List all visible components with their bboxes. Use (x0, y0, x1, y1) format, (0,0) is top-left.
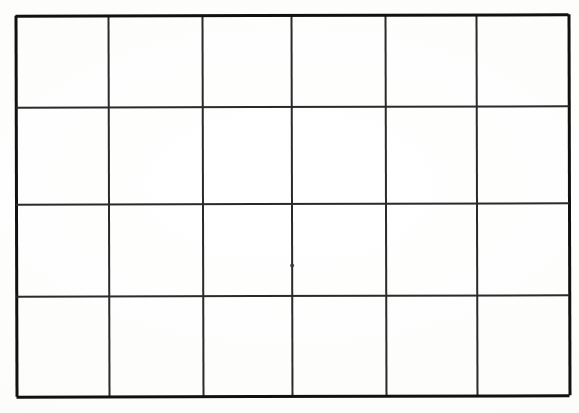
grid-cell-r1-c3[interactable] (292, 107, 386, 204)
grid-cell-r1-c0[interactable] (16, 107, 109, 204)
grid-table[interactable] (15, 14, 569, 396)
page-canvas (0, 0, 579, 413)
grid-cell-r3-c5[interactable] (477, 295, 569, 395)
ink-speck-artifact (290, 264, 294, 267)
grid-cell-r2-c3[interactable] (292, 204, 386, 296)
grid-cell-r0-c5[interactable] (476, 14, 568, 106)
grid-cell-r2-c4[interactable] (386, 204, 477, 296)
grid-cell-r2-c5[interactable] (477, 203, 569, 295)
grid-cell-r0-c1[interactable] (108, 15, 202, 107)
grid-border-right (567, 14, 571, 395)
grid-cell-r0-c4[interactable] (385, 15, 476, 107)
grid-cell-r2-c0[interactable] (16, 204, 109, 296)
grid-cell-r0-c2[interactable] (202, 15, 291, 107)
grid-cell-r1-c1[interactable] (109, 107, 203, 204)
grid-cell-r2-c2[interactable] (203, 204, 292, 296)
grid-cell-r3-c2[interactable] (203, 296, 292, 396)
grid-cell-r0-c3[interactable] (291, 15, 385, 107)
grid-cell-r3-c0[interactable] (16, 296, 109, 396)
grid-cell-r2-c1[interactable] (109, 204, 203, 296)
grid-cell-r3-c1[interactable] (109, 296, 203, 396)
grid-cell-r1-c2[interactable] (203, 107, 292, 204)
grid-cell-r3-c3[interactable] (292, 296, 386, 396)
grid-border-bottom (16, 394, 569, 398)
grid-cell-r3-c4[interactable] (386, 296, 477, 396)
grid-cell-r1-c4[interactable] (386, 107, 477, 204)
grid-cell-r1-c5[interactable] (477, 106, 569, 203)
grid-skew-wrapper (0, 0, 579, 413)
grid-cell-r0-c0[interactable] (15, 15, 108, 107)
